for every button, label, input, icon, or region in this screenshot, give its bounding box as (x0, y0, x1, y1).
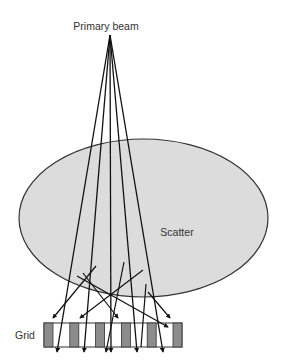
scatter-label: Scatter (160, 226, 194, 238)
grid-lead-strip (44, 323, 53, 347)
grid-lead-strip (70, 323, 79, 347)
primary-beam-label: Primary beam (73, 20, 139, 32)
grid-lead-strip (121, 323, 130, 347)
grid-lead-strip (173, 323, 182, 347)
grid-lead-strip (96, 323, 105, 347)
grid-lead-strip (147, 323, 156, 347)
primary-ray (110, 35, 111, 352)
scatter-grid-diagram: Primary beam Scatter Grid (0, 0, 283, 362)
scatter-object-ellipse (19, 139, 268, 297)
grid-label: Grid (15, 329, 35, 341)
